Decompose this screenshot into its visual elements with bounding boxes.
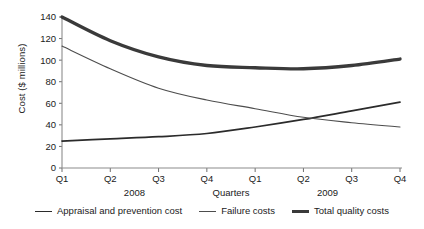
y-axis-ticks: 020406080100120140: [40, 11, 62, 173]
y-tick-label: 60: [45, 98, 56, 109]
legend-item[interactable]: Appraisal and prevention cost: [35, 206, 182, 216]
y-tick-label: 0: [51, 162, 56, 173]
y-tick-label: 140: [40, 11, 56, 22]
chart-figure: Cost ($ millions) 020406080100120140 Q1Q…: [0, 0, 424, 229]
series-line: [62, 46, 400, 127]
y-tick-label: 20: [45, 141, 56, 152]
legend-item[interactable]: Failure costs: [199, 206, 275, 216]
y-tick-label: 100: [40, 55, 56, 66]
x-group-label: 2009: [317, 187, 338, 198]
x-axis-group-labels: 2008Quarters2009: [124, 187, 338, 198]
series-line: [62, 102, 400, 141]
x-tick-label: Q3: [345, 173, 358, 184]
x-group-label: Quarters: [213, 187, 250, 198]
line-chart-plot: 020406080100120140 Q1Q2Q3Q4Q1Q2Q3Q4 2008…: [0, 0, 424, 200]
x-tick-label: Q2: [104, 173, 117, 184]
x-tick-label: Q1: [249, 173, 262, 184]
x-tick-label: Q1: [56, 173, 69, 184]
y-tick-label: 40: [45, 119, 56, 130]
y-tick-label: 80: [45, 76, 56, 87]
legend-line-swatch: [292, 210, 309, 213]
chart-legend: Appraisal and prevention costFailure cos…: [0, 200, 424, 222]
x-tick-label: Q4: [201, 173, 214, 184]
x-tick-label: Q3: [152, 173, 165, 184]
x-tick-label: Q2: [297, 173, 310, 184]
x-axis-ticks: Q1Q2Q3Q4Q1Q2Q3Q4: [56, 168, 407, 184]
legend-item[interactable]: Total quality costs: [292, 206, 389, 216]
legend-line-swatch: [199, 211, 216, 212]
series-lines: [62, 17, 400, 141]
legend-label: Total quality costs: [314, 206, 389, 216]
x-tick-label: Q4: [394, 173, 407, 184]
legend-line-swatch: [35, 211, 52, 212]
legend-label: Appraisal and prevention cost: [57, 206, 182, 216]
series-line: [62, 17, 400, 69]
legend-label: Failure costs: [221, 206, 275, 216]
y-tick-label: 120: [40, 33, 56, 44]
x-group-label: 2008: [124, 187, 145, 198]
